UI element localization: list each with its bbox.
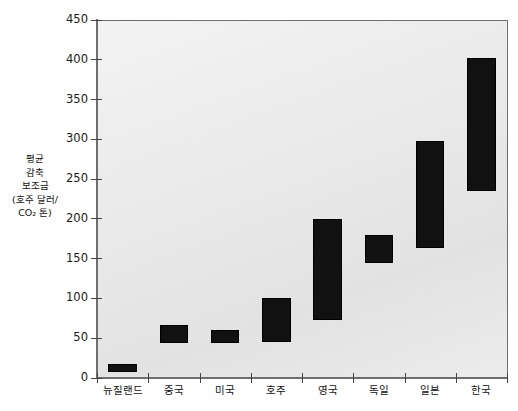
y-tick-label: 150 xyxy=(28,253,88,264)
y-tick-label: 200 xyxy=(28,213,88,224)
x-category-label: 중국 xyxy=(148,384,199,397)
y-tick-label-group: 050100150200250300350400450 xyxy=(22,0,88,411)
x-category-label: 한국 xyxy=(456,384,507,397)
x-category-label: 독일 xyxy=(353,384,404,397)
y-tick-label: 250 xyxy=(28,173,88,184)
x-category-label: 호주 xyxy=(251,384,302,397)
y-tick-mark xyxy=(91,179,102,180)
y-tick-mark xyxy=(91,218,102,219)
x-tick-mark xyxy=(148,373,149,383)
y-tick-label: 450 xyxy=(28,14,88,25)
bar-중국 xyxy=(160,325,189,343)
y-tick-mark xyxy=(91,338,102,339)
x-tick-mark xyxy=(456,373,457,383)
y-tick-mark xyxy=(91,99,102,100)
x-tick-mark xyxy=(302,373,303,383)
y-tick-label: 100 xyxy=(28,292,88,303)
bar-영국 xyxy=(313,219,342,320)
y-tick-mark xyxy=(91,298,102,299)
x-tick-mark xyxy=(200,373,201,383)
x-category-label: 일본 xyxy=(405,384,456,397)
y-tick-mark xyxy=(91,139,102,140)
bar-호주 xyxy=(262,298,291,342)
x-tick-mark xyxy=(405,373,406,383)
x-category-label: 뉴질랜드 xyxy=(97,384,148,397)
bar-미국 xyxy=(211,330,240,343)
x-category-label: 영국 xyxy=(302,384,353,397)
y-tick-label: 300 xyxy=(28,133,88,144)
y-tick-label: 400 xyxy=(28,54,88,65)
y-tick-mark xyxy=(91,20,102,21)
bar-뉴질랜드 xyxy=(108,364,137,373)
bar-일본 xyxy=(416,141,445,248)
x-tick-mark xyxy=(353,373,354,383)
bar-한국 xyxy=(467,58,496,191)
y-tick-label: 0 xyxy=(28,372,88,383)
x-tick-mark xyxy=(251,373,252,383)
y-tick-label: 50 xyxy=(28,332,88,343)
y-tick-mark xyxy=(91,59,102,60)
y-tick-label: 350 xyxy=(28,94,88,105)
x-tick-mark xyxy=(507,373,508,383)
bar-독일 xyxy=(365,235,394,263)
y-axis-spine xyxy=(96,19,98,379)
x-tick-mark xyxy=(97,373,98,383)
chart-figure: 평균 감축 보조금 (호주 달러/ CO₂ 톤) 050100150200250… xyxy=(0,0,518,411)
x-category-label: 미국 xyxy=(200,384,251,397)
y-tick-mark xyxy=(91,258,102,259)
